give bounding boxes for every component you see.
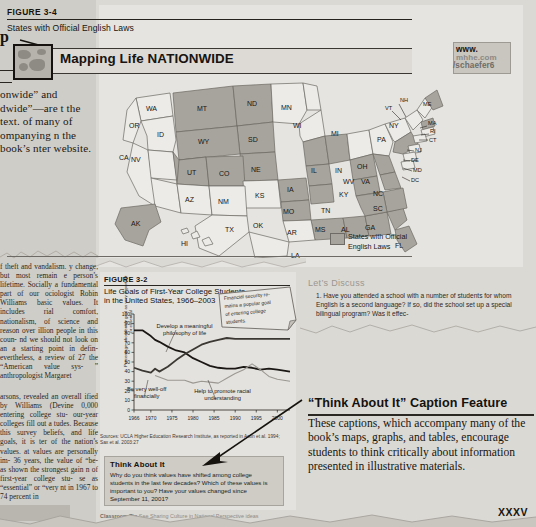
figure-3-4-bottom-rule	[7, 256, 412, 257]
svg-text:0: 0	[127, 407, 130, 413]
lets-discuss-item-number: 1.	[316, 292, 322, 299]
chart-y-ticks: 0102030405060708090100	[122, 311, 134, 413]
chart-series	[134, 330, 290, 383]
svg-text:WA: WA	[146, 105, 157, 112]
svg-text:AK: AK	[131, 220, 141, 227]
svg-text:40: 40	[124, 368, 130, 374]
torn-edge-left	[0, 248, 98, 262]
left-rule-short	[0, 82, 12, 83]
svg-text:NC: NC	[373, 190, 383, 197]
lets-discuss-heading: Let’s Discuss	[308, 278, 365, 288]
svg-text:DC: DC	[411, 177, 419, 183]
map-legend-line2: English Laws	[348, 242, 407, 252]
svg-text:50: 50	[124, 359, 130, 365]
classroom-tip: Classroom Tip See Sharing Culture in Nat…	[100, 513, 400, 519]
chart-callout-note: Financial security re- mains a popular g…	[216, 286, 298, 332]
map-legend-line1: States with Official	[348, 232, 407, 242]
svg-text:IN: IN	[335, 167, 342, 174]
svg-text:GA: GA	[365, 224, 375, 231]
chart-annotations: Develop a meaningfulphilosophy of lifeBe…	[127, 323, 251, 400]
svg-text:financially: financially	[134, 393, 160, 399]
svg-text:ID: ID	[157, 131, 164, 138]
svg-text:WV: WV	[343, 178, 355, 185]
svg-text:OR: OR	[129, 122, 140, 129]
svg-text:KS: KS	[255, 192, 265, 199]
svg-text:OK: OK	[253, 222, 263, 229]
svg-text:Develop a meaningful: Develop a meaningful	[157, 323, 213, 329]
lets-discuss-item-text: Have you attended a school with a number…	[316, 292, 512, 317]
svg-text:SD: SD	[248, 136, 258, 143]
map-legend-label: States with Official English Laws	[348, 232, 407, 251]
svg-text:MI: MI	[331, 130, 339, 137]
classroom-tip-text: See Sharing Culture in National Perspect…	[139, 513, 259, 519]
svg-text:80: 80	[124, 330, 130, 336]
svg-text:MD: MD	[413, 167, 422, 173]
think-about-it-body: Why do you think values have shifted amo…	[110, 471, 276, 503]
svg-text:ME: ME	[423, 101, 432, 107]
caption-feature-block: “Think About It” Caption Feature These c…	[300, 396, 536, 492]
page-folio: XXXV	[498, 506, 528, 518]
globe-icon	[13, 44, 53, 80]
svg-text:CT: CT	[429, 137, 437, 143]
svg-text:90: 90	[124, 320, 130, 326]
svg-text:WI: WI	[293, 122, 302, 129]
figure-3-4-label: FIGURE 3-4	[7, 7, 57, 17]
caption-feature-body: These captions, which accompany many of …	[308, 417, 536, 475]
caption-feature-heading: “Think About It” Caption Feature	[308, 396, 507, 410]
lets-discuss-block: Let’s Discuss 1. Have you attended a sch…	[308, 278, 522, 326]
svg-text:MT: MT	[197, 105, 208, 112]
svg-text:NV: NV	[131, 156, 141, 163]
svg-text:NE: NE	[251, 166, 261, 173]
svg-text:NM: NM	[218, 198, 229, 205]
svg-text:TX: TX	[225, 226, 234, 233]
svg-text:70: 70	[124, 340, 130, 346]
svg-text:SC: SC	[373, 205, 383, 212]
caption-feature-rule	[308, 414, 534, 416]
svg-text:VA: VA	[361, 178, 370, 185]
svg-text:CO: CO	[219, 170, 230, 177]
svg-text:IL: IL	[311, 167, 317, 174]
svg-text:NY: NY	[389, 122, 399, 129]
svg-text:RI: RI	[430, 128, 436, 134]
lets-discuss-item: 1. Have you attended a school with a num…	[316, 291, 521, 319]
svg-text:100: 100	[122, 311, 131, 317]
svg-text:60: 60	[124, 349, 130, 355]
svg-text:WY: WY	[198, 138, 210, 145]
svg-text:DE: DE	[411, 157, 419, 163]
svg-text:1975: 1975	[166, 415, 177, 421]
svg-text:MN: MN	[281, 104, 292, 111]
svg-text:TN: TN	[321, 207, 330, 214]
svg-text:AR: AR	[287, 229, 297, 236]
svg-text:MO: MO	[283, 208, 295, 215]
svg-text:1966: 1966	[128, 415, 139, 421]
svg-text:KY: KY	[339, 191, 349, 198]
svg-text:30: 30	[124, 378, 130, 384]
left-intro-text: onwide” and dwide”—are t the text. of ma…	[0, 88, 98, 156]
svg-text:VT: VT	[385, 105, 393, 111]
svg-text:Help to promote racial: Help to promote racial	[194, 388, 251, 394]
svg-text:NH: NH	[400, 97, 408, 103]
svg-text:NJ: NJ	[415, 147, 422, 153]
classroom-tip-label: Classroom Tip	[100, 513, 137, 519]
figure-3-2-title-line2: in the United States, 1966–2003	[104, 296, 215, 305]
svg-text:MA: MA	[428, 120, 437, 126]
svg-text:AZ: AZ	[185, 196, 195, 203]
svg-text:1970: 1970	[145, 415, 156, 421]
figure-3-4-rule	[7, 19, 412, 20]
mapping-life-banner-label: Mapping Life NATIONWIDE	[60, 51, 234, 66]
svg-text:PA: PA	[377, 136, 386, 143]
left-body-text-1: f theft and vandalism. y change, but mos…	[0, 262, 98, 380]
svg-text:ND: ND	[247, 100, 257, 107]
figure-3-4-title: States with Official English Laws	[7, 23, 134, 33]
svg-text:Be very well-off: Be very well-off	[127, 386, 167, 392]
pointer-arrow-to-think-box	[198, 398, 304, 468]
svg-text:MS: MS	[315, 226, 326, 233]
svg-text:philosophy of life: philosophy of life	[163, 330, 206, 336]
svg-text:UT: UT	[187, 169, 197, 176]
think-about-it-heading: Think About It	[110, 460, 165, 469]
website-url-line3: /schaefer6	[453, 61, 495, 70]
left-footer-block	[0, 505, 70, 521]
svg-text:IA: IA	[287, 186, 294, 193]
svg-text:10: 10	[124, 397, 130, 403]
svg-text:OH: OH	[357, 163, 368, 170]
